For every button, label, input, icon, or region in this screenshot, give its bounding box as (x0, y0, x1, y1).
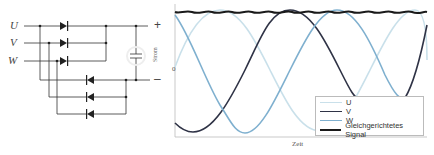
legend-swatch-u (320, 102, 342, 103)
input-label-u: U (10, 19, 18, 31)
legend-item-v: V (320, 107, 351, 116)
y-tick-zero: 0 (172, 65, 176, 73)
x-axis-label: Zeit (292, 140, 303, 148)
legend-label-u: U (346, 98, 351, 107)
legend-item-rectified: Gleichgerichtetes Signal (320, 125, 423, 134)
input-label-v: V (10, 36, 17, 48)
legend-swatch-w (320, 120, 342, 121)
legend-swatch-rectified (320, 129, 341, 131)
rectifier-circuit (0, 0, 170, 155)
legend-swatch-v (320, 111, 342, 112)
chart-legend: U V W Gleichgerichtetes Signal (315, 96, 424, 136)
y-axis-label: Strom (152, 47, 158, 62)
legend-item-u: U (320, 98, 351, 107)
output-plus: + (154, 18, 161, 32)
input-label-w: W (8, 54, 17, 66)
legend-label-v: V (346, 107, 351, 116)
output-minus: – (154, 72, 161, 86)
legend-label-rectified: Gleichgerichtetes Signal (345, 121, 423, 139)
series-rectified (175, 11, 427, 13)
